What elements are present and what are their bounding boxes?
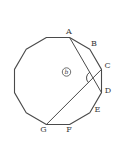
angle-label: b: [65, 68, 69, 75]
vertex-label-G: G: [40, 125, 46, 134]
vertex-label-E: E: [95, 105, 101, 114]
vertex-label-B: B: [91, 39, 97, 48]
vertex-label-C: C: [104, 61, 110, 70]
dodecagon-diagram: bABCDEFG: [0, 0, 115, 141]
vertex-label-F: F: [66, 125, 72, 134]
vertex-label-A: A: [65, 27, 72, 36]
polygon-outline: [15, 38, 102, 125]
vertex-label-D: D: [105, 86, 111, 95]
figure-canvas: bABCDEFG: [0, 0, 115, 141]
diagonal-GC: [46, 69, 101, 124]
